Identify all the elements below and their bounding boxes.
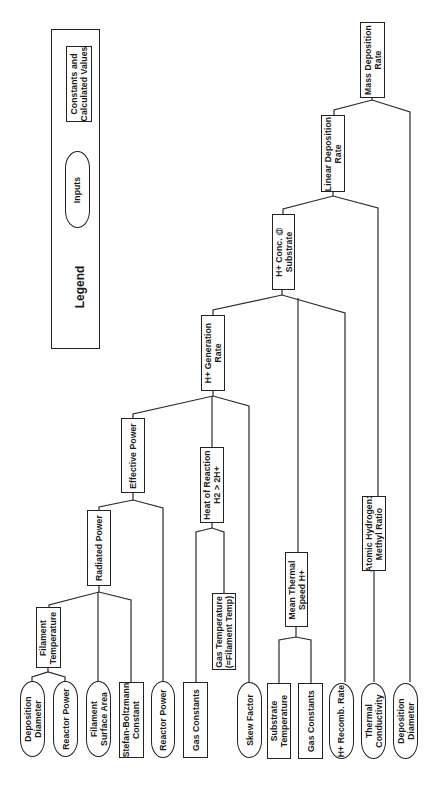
leaf-reactor-power: Reactor Power	[53, 681, 78, 757]
leaf-label: Filament Surface Area	[89, 692, 109, 746]
node-h-conc-substrate: H+ Conc. @ Substrate	[272, 214, 295, 290]
node-filament-temperature: Filament Temperature	[36, 607, 61, 668]
leaf-label: Skew Factor	[245, 694, 255, 746]
node-radiated-power: Radiated Power	[87, 510, 111, 586]
legend-inputs-label: Inputs	[73, 176, 83, 202]
node-label: H+ Conc. @ Substrate	[274, 227, 294, 276]
node-label: Mean Thermal Speed H+	[287, 560, 307, 619]
leaf-deposition-diameter-2: Deposition Diameter	[393, 683, 418, 759]
leaf-label: Thermal Conductivity	[364, 694, 384, 747]
leaf-label: Gas Constants	[306, 690, 316, 752]
leaf-label: Deposition Diameter	[396, 698, 416, 743]
legend-title: Legend	[68, 272, 92, 302]
node-label: Effective Power	[128, 423, 138, 489]
leaf-skew-factor: Skew Factor	[237, 682, 262, 758]
node-label: Linear Deposition Rate	[323, 116, 343, 190]
leaf-deposition-diameter: Deposition Diameter	[20, 681, 45, 757]
node-label: H+ Generation Rate	[203, 323, 223, 383]
leaf-thermal-conductivity: Thermal Conductivity	[361, 683, 386, 759]
node-effective-power: Effective Power	[121, 418, 145, 493]
leaf-filament-surface-area: Filament Surface Area	[86, 681, 111, 757]
legend-constants-box: Constants and Calculated Values	[66, 46, 92, 122]
node-gas-temperature: Gas Temperature (=Filament Temp)	[212, 593, 236, 670]
leaf-label: H+ Recomb. Rate	[337, 685, 347, 757]
node-linear-deposition-rate: Linear Deposition Rate	[321, 115, 345, 192]
node-label: Mass Deposition Rate	[363, 25, 383, 95]
node-label: Atomic Hydrogen: Methyl Ratio	[364, 495, 384, 571]
leaf-h-recomb-rate: H+ Recomb. Rate	[329, 683, 354, 759]
legend-constants-label: Constants and Calculated Values	[69, 47, 89, 122]
leaf-label: Stefan-Boltzmann Constant	[122, 683, 142, 758]
node-h-generation-rate: H+ Generation Rate	[201, 315, 225, 391]
node-label: Filament Temperature	[39, 611, 59, 664]
leaf-reactor-power-2: Reactor Power	[151, 681, 175, 758]
leaf-label: Reactor Power	[61, 688, 71, 749]
leaf-label: Gas Constants	[191, 689, 201, 751]
node-atomic-hydrogen-methyl-ratio: Atomic Hydrogen: Methyl Ratio	[362, 496, 386, 571]
leaf-label: Substrate Temperature	[269, 695, 289, 748]
leaf-stefan-boltzmann-constant: Stefan-Boltzmann Constant	[119, 682, 144, 758]
leaf-substrate-temperature: Substrate Temperature	[267, 683, 291, 759]
leaf-label: Deposition Diameter	[23, 696, 43, 741]
node-label: Gas Temperature (=Filament Temp)	[214, 595, 234, 667]
legend-title-text: Legend	[73, 266, 87, 309]
node-mass-deposition-rate: Mass Deposition Rate	[360, 22, 385, 98]
legend-inputs-pill: Inputs	[65, 151, 90, 228]
node-heat-of-reaction: Heat of Reaction H2 > 2H+	[200, 447, 224, 523]
node-label: Radiated Power	[94, 515, 104, 581]
leaf-gas-constants-2: Gas Constants	[298, 683, 323, 759]
diagram-canvas: Constants and Calculated Values Inputs L…	[0, 0, 437, 801]
node-mean-thermal-speed: Mean Thermal Speed H+	[285, 552, 308, 627]
leaf-label: Reactor Power	[158, 689, 168, 750]
node-label: Heat of Reaction H2 > 2H+	[202, 450, 222, 519]
leaf-gas-constants: Gas Constants	[183, 682, 208, 758]
